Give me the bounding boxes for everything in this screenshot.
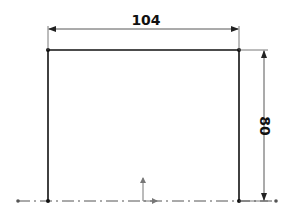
centerline-endpoint[interactable] <box>16 199 20 203</box>
dimension-width-label[interactable]: 104 <box>131 12 160 28</box>
dimension-height[interactable]: 80 <box>239 50 273 201</box>
centerline-endpoint[interactable] <box>274 199 278 203</box>
vertex-point[interactable] <box>46 199 50 203</box>
dimension-width[interactable]: 104 <box>48 12 239 50</box>
sketch-canvas[interactable]: 104 80 <box>0 0 289 219</box>
dimension-height-label[interactable]: 80 <box>257 116 273 136</box>
origin-icon <box>143 178 157 201</box>
